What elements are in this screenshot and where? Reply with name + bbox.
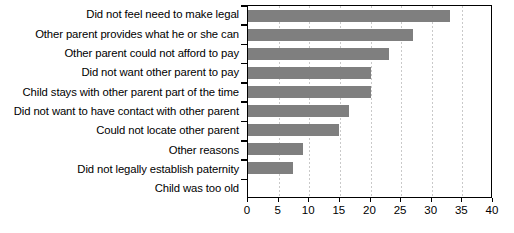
x-tick-label: 35	[455, 204, 468, 216]
category-axis-labels: Did not feel need to make legal Other pa…	[0, 5, 243, 198]
bar-row	[248, 178, 491, 197]
x-tick-mark	[400, 198, 401, 202]
category-label: Other parent could not afford to pay	[0, 44, 243, 63]
bar-series	[248, 6, 491, 197]
x-tick-mark	[278, 198, 279, 202]
bar-row	[248, 101, 491, 120]
x-tick-mark	[492, 198, 493, 202]
bar-row	[248, 159, 491, 178]
x-tick-label: 25	[394, 204, 407, 216]
bar	[248, 162, 293, 174]
x-tick-mark	[370, 198, 371, 202]
bar	[248, 29, 413, 41]
bar-row	[248, 44, 491, 63]
category-label: Other reasons	[0, 140, 243, 159]
category-label: Did not want other parent to pay	[0, 63, 243, 82]
bar-row	[248, 25, 491, 44]
plot-area	[247, 5, 492, 198]
bar	[248, 67, 371, 79]
value-axis: 0510152025303540	[247, 198, 492, 233]
x-tick-label: 0	[244, 204, 250, 216]
category-label: Could not locate other parent	[0, 121, 243, 140]
x-tick-label: 30	[424, 204, 437, 216]
bar	[248, 86, 371, 98]
bar-row	[248, 140, 491, 159]
category-label: Child was too old	[0, 179, 243, 198]
category-label: Child stays with other parent part of th…	[0, 82, 243, 101]
bar-row	[248, 63, 491, 82]
x-tick-label: 5	[274, 204, 280, 216]
x-tick-mark	[339, 198, 340, 202]
bar	[248, 10, 450, 22]
bar-row	[248, 82, 491, 101]
x-tick-mark	[308, 198, 309, 202]
x-tick-mark	[431, 198, 432, 202]
bar	[248, 48, 389, 60]
category-label: Did not feel need to make legal	[0, 5, 243, 24]
x-tick-label: 10	[302, 204, 315, 216]
bar	[248, 143, 303, 155]
bar	[248, 105, 349, 117]
x-tick-label: 40	[486, 204, 499, 216]
category-label: Other parent provides what he or she can	[0, 24, 243, 43]
x-tick-mark	[461, 198, 462, 202]
bar	[248, 124, 339, 136]
bar-chart: Did not feel need to make legal Other pa…	[0, 0, 514, 233]
category-label: Did not legally establish paternity	[0, 159, 243, 178]
x-tick-label: 20	[363, 204, 376, 216]
x-tick-mark	[247, 198, 248, 202]
bar-row	[248, 121, 491, 140]
bar-row	[248, 6, 491, 25]
x-tick-label: 15	[332, 204, 345, 216]
category-label: Did not want to have contact with other …	[0, 101, 243, 120]
